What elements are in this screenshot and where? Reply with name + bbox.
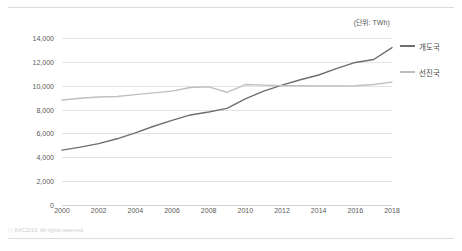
plot-area: [62, 38, 392, 205]
series-line-개도국: [62, 48, 392, 151]
x-tick-label: 2018: [384, 207, 400, 214]
x-tick-label: 2010: [238, 207, 254, 214]
y-tick-label: 4,000: [36, 154, 54, 161]
legend-item-선진국[interactable]: 선진국: [400, 66, 458, 78]
legend: 개도국선진국: [400, 40, 458, 92]
y-tick-label: 8,000: [36, 106, 54, 113]
bottom-divider: [8, 238, 454, 239]
legend-swatch-icon: [400, 71, 415, 73]
x-tick-label: 2016: [348, 207, 364, 214]
series-layer: [62, 38, 392, 205]
series-line-선진국: [62, 82, 392, 100]
top-divider: [8, 7, 454, 8]
x-tick-label: 2004: [128, 207, 144, 214]
y-tick-label: 10,000: [33, 82, 54, 89]
chart-card: (단위: TWh) 14,00012,00010,0008,0006,0004,…: [0, 0, 462, 251]
legend-item-개도국[interactable]: 개도국: [400, 40, 458, 52]
x-tick-label: 2008: [201, 207, 217, 214]
x-tick-label: 2006: [164, 207, 180, 214]
x-tick-label: 2014: [311, 207, 327, 214]
y-tick-label: 14,000: [33, 35, 54, 42]
y-tick-label: 12,000: [33, 58, 54, 65]
y-tick-label: 2,000: [36, 178, 54, 185]
unit-annotation: (단위: TWh): [354, 17, 390, 27]
y-tick-label: 6,000: [36, 130, 54, 137]
x-axis: 2000200220042006200820102012201420162018: [62, 207, 392, 221]
legend-swatch-icon: [400, 45, 415, 47]
x-tick-label: 2002: [91, 207, 107, 214]
legend-label: 개도국: [419, 41, 440, 52]
x-tick-label: 2012: [274, 207, 290, 214]
footer-copyright: ⓒ KAC2019. All rights reserved.: [8, 226, 84, 233]
gridline-0: [62, 205, 392, 206]
legend-label: 선진국: [419, 67, 440, 78]
y-axis: 14,00012,00010,0008,0006,0004,0002,0000: [0, 38, 58, 205]
x-tick-label: 2000: [54, 207, 70, 214]
